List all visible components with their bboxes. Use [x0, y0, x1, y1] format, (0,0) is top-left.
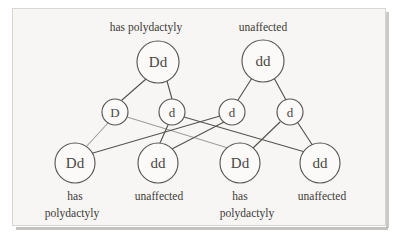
offspring-4-genotype: dd: [313, 155, 329, 171]
parent-left-phenotype-label: has polydactyly: [110, 21, 183, 34]
gamete-2-allele: d: [169, 105, 176, 120]
parent-left-node[interactable]: Dd: [137, 41, 179, 83]
offspring-1-genotype: Dd: [66, 155, 85, 171]
offspring-1-node[interactable]: Dd: [55, 143, 95, 183]
offspring-2-node[interactable]: dd: [138, 143, 178, 183]
parent-right-node[interactable]: dd: [242, 40, 284, 82]
gamete-2-node[interactable]: d: [159, 99, 185, 125]
offspring-3-node[interactable]: Dd: [220, 143, 260, 183]
line-gamete3-to-offspring2: [170, 122, 224, 150]
line-parentleft-to-gamete1: [122, 79, 146, 100]
offspring-2-phenotype-line1: unaffected: [135, 190, 184, 202]
offspring-3-genotype: Dd: [231, 155, 250, 171]
parent-right-genotype: dd: [256, 53, 272, 69]
offspring-1-phenotype-line1: has: [67, 190, 83, 202]
cross-diagram: Dd has polydactyly dd unaffected D d d d: [0, 0, 399, 247]
pedigree-figure: Dd has polydactyly dd unaffected D d d d: [0, 0, 399, 247]
offspring-1-phenotype-line2: polydactyly: [45, 207, 100, 220]
offspring-4-phenotype-line1: unaffected: [298, 190, 347, 202]
line-gamete1-to-offspring1: [85, 123, 108, 148]
gamete-1-node[interactable]: D: [102, 99, 128, 125]
offspring-2-genotype: dd: [151, 155, 167, 171]
line-gamete4-to-offspring4: [298, 123, 313, 146]
gamete-3-allele: d: [229, 105, 236, 120]
offspring-3-phenotype-line1: has: [232, 190, 248, 202]
line-parentright-to-gamete4: [274, 78, 286, 100]
offspring-4-node[interactable]: dd: [300, 143, 340, 183]
offspring-3-phenotype-line2: polydactyly: [220, 207, 275, 220]
line-parentright-to-gamete3: [238, 78, 252, 100]
gamete-3-node[interactable]: d: [219, 99, 245, 125]
gamete-4-allele: d: [287, 105, 294, 120]
gamete-4-node[interactable]: d: [277, 99, 303, 125]
line-gamete4-to-offspring3: [252, 122, 280, 149]
parent-left-genotype: Dd: [149, 54, 168, 70]
line-parentleft-to-gamete2: [167, 81, 172, 99]
parent-right-phenotype-label: unaffected: [239, 21, 288, 33]
gamete-1-allele: D: [110, 105, 119, 120]
